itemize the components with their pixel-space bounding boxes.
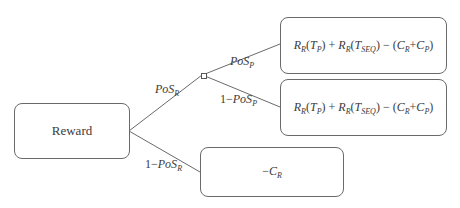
prob-sub: R [174,89,179,98]
decision-tree-diagram: Reward PoSR PoSP 1−PoSP 1−PoSR RR(TP) + … [0,0,460,208]
outcome-box-success: RR(TP) + RR(TSEQ) − (CR+CP) [280,17,447,74]
prob-base: PoS [158,157,177,171]
prob-base: PoS [230,54,249,68]
prob-label-neg-r: 1−PoSR [145,157,182,173]
reward-label: Reward [52,123,92,139]
prob-label-neg-p: 1−PoSP [220,92,257,108]
prob-prefix: 1− [145,157,158,171]
outcome-expression: RR(TP) + RR(TSEQ) − (CR+CP) [294,100,434,116]
outcome-expression: −CR [262,164,282,180]
prob-base: PoS [233,92,252,106]
outcome-expression: RR(TP) + RR(TSEQ) − (CR+CP) [294,38,434,54]
chance-node [201,73,207,79]
prob-sub: P [249,61,254,70]
prob-prefix: 1− [220,92,233,106]
reward-box: Reward [14,103,130,159]
prob-sub: P [252,99,257,108]
prob-label-pos-r: PoSR [155,82,179,98]
prob-sub: R [177,164,182,173]
outcome-box-fail-p: RR(TP) + RR(TSEQ) − (CR+CP) [280,79,447,136]
prob-label-pos-p: PoSP [230,54,254,70]
prob-base: PoS [155,82,174,96]
outcome-box-fail-r: −CR [200,147,344,197]
